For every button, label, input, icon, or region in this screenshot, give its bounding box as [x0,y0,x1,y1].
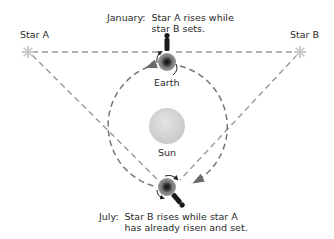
star-a-label: Star A [20,29,49,40]
january-caption: January: Star A rises while star B sets. [107,12,234,34]
earth-january-icon [157,33,177,75]
star-b-label: Star B [290,29,319,40]
star-a-icon [22,46,34,58]
july-caption-line2: has already risen and set. [125,222,248,233]
july-caption: July: Star B rises while star A has alre… [99,211,248,233]
earth-july-icon [157,175,186,208]
january-caption-line2: star B sets. [152,23,234,34]
july-caption-line1: Star B rises while star A [125,211,248,222]
orbit-diagram [0,0,334,239]
sun-icon [149,108,185,144]
sun-label: Sun [158,147,176,158]
star-b-icon [294,46,306,58]
july-caption-head: July: [99,211,119,222]
observer-icon [165,38,170,51]
january-caption-head: January: [107,12,146,23]
earth-label: Earth [154,77,179,88]
january-caption-line1: Star A rises while [152,12,234,23]
